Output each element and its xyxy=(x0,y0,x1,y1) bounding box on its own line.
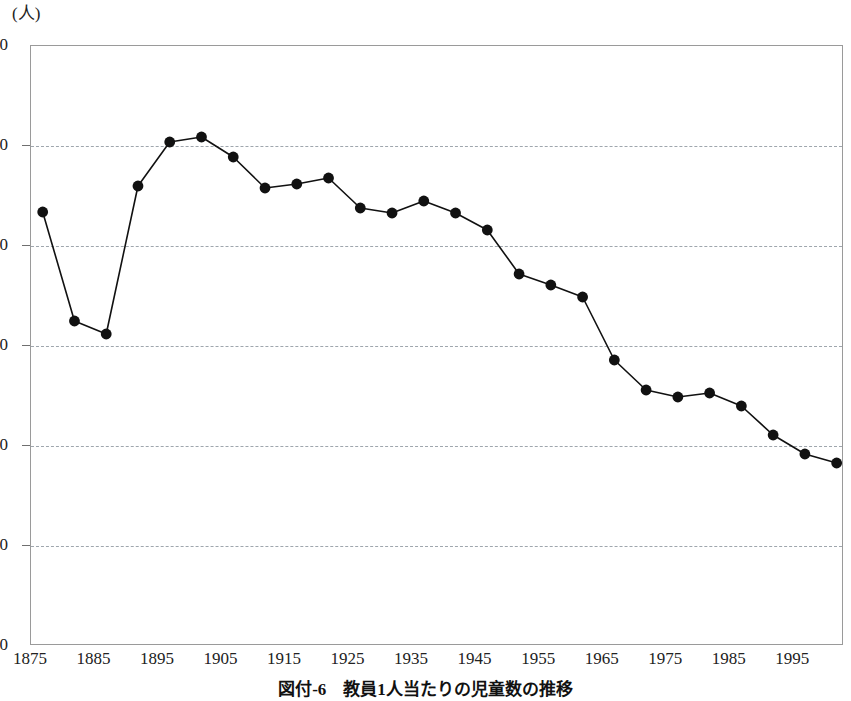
y-axis-unit-label: (人) xyxy=(12,4,40,24)
gridlines xyxy=(31,46,842,644)
x-tick-label: 1955 xyxy=(503,650,573,668)
y-tick-mark xyxy=(22,445,30,446)
y-tick-label: 40 xyxy=(0,236,8,253)
x-tick-label: 1875 xyxy=(0,650,65,668)
figure-container: (人) 010203040506018751885189519051915192… xyxy=(0,0,851,701)
x-tick-label: 1935 xyxy=(376,650,446,668)
x-tick-label: 1905 xyxy=(186,650,256,668)
y-tick-mark xyxy=(22,545,30,546)
y-tick-label: 60 xyxy=(0,36,8,53)
plot-area xyxy=(30,45,843,645)
x-tick-label: 1915 xyxy=(249,650,319,668)
y-tick-mark xyxy=(22,245,30,246)
y-tick-label: 50 xyxy=(0,136,8,153)
gridline-y-10 xyxy=(31,546,842,547)
y-tick-label: 20 xyxy=(0,436,8,453)
x-tick-label: 1885 xyxy=(59,650,129,668)
x-tick-label: 1925 xyxy=(313,650,383,668)
x-tick-label: 1945 xyxy=(440,650,510,668)
y-tick-label: 10 xyxy=(0,536,8,553)
x-tick-label: 1965 xyxy=(567,650,637,668)
x-tick-label: 1985 xyxy=(694,650,764,668)
x-tick-label: 1895 xyxy=(122,650,192,668)
y-tick-mark xyxy=(22,145,30,146)
x-tick-label: 1975 xyxy=(630,650,700,668)
gridline-y-50 xyxy=(31,146,842,147)
x-tick-label: 1995 xyxy=(757,650,827,668)
gridline-y-30 xyxy=(31,346,842,347)
figure-caption: 図付-6 教員1人当たりの児童数の推移 xyxy=(0,679,851,700)
y-tick-label: 30 xyxy=(0,336,8,353)
gridline-y-20 xyxy=(31,446,842,447)
y-tick-mark xyxy=(22,345,30,346)
gridline-y-40 xyxy=(31,246,842,247)
